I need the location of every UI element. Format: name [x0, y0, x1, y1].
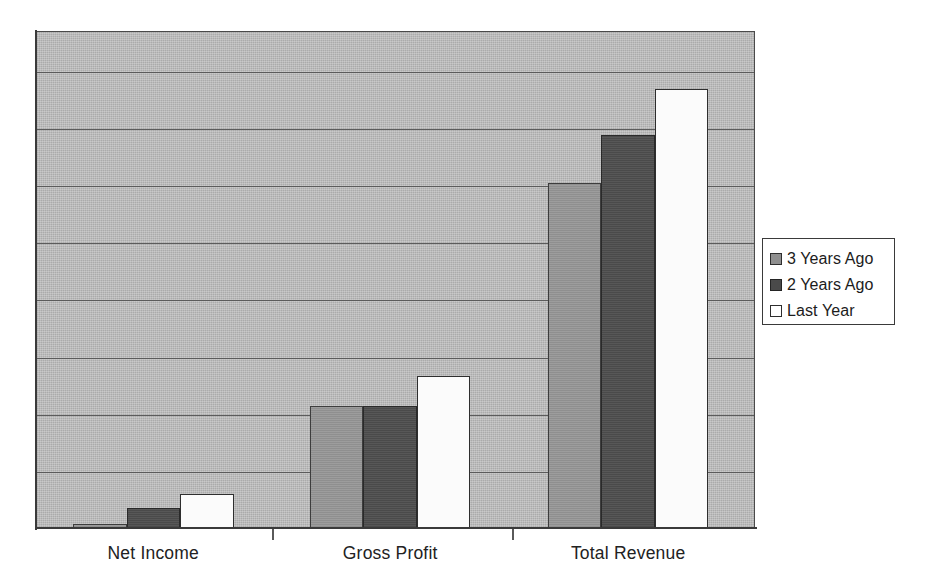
bar-gross-profit-last-year: [417, 376, 471, 529]
bar-gross-profit-3-years-ago: [310, 406, 364, 529]
legend-item-2: Last Year: [770, 298, 888, 324]
bar-total-revenue-3-years-ago: [548, 183, 602, 529]
bar-net-income-last-year: [180, 494, 234, 529]
bar-chart-figure: Net IncomeGross ProfitTotal Revenue 3 Ye…: [0, 0, 931, 585]
x-axis-tick: [512, 529, 514, 540]
x-axis-tick: [272, 529, 274, 540]
x-axis-label-gross-profit: Gross Profit: [280, 543, 500, 564]
legend-swatch-2-years-ago-icon: [770, 279, 782, 291]
chart-legend: 3 Years Ago 2 Years Ago Last Year: [762, 238, 895, 325]
legend-swatch-last-year-icon: [770, 305, 782, 317]
legend-label-1: 2 Years Ago: [787, 276, 874, 294]
bar-net-income-2-years-ago: [127, 508, 181, 529]
legend-label-0: 3 Years Ago: [787, 250, 874, 268]
y-axis-line: [35, 30, 37, 530]
legend-swatch-3-years-ago-icon: [770, 253, 782, 265]
x-axis-label-net-income: Net Income: [43, 543, 263, 564]
bar-total-revenue-last-year: [655, 89, 709, 529]
legend-item-0: 3 Years Ago: [770, 246, 888, 272]
legend-item-1: 2 Years Ago: [770, 272, 888, 298]
gridline: [36, 129, 754, 130]
bar-total-revenue-2-years-ago: [601, 135, 655, 529]
x-axis-label-total-revenue: Total Revenue: [518, 543, 738, 564]
bar-gross-profit-2-years-ago: [363, 406, 417, 529]
gridline: [36, 72, 754, 73]
plot-area: [36, 31, 755, 528]
legend-label-2: Last Year: [787, 302, 855, 320]
x-axis-line: [35, 527, 757, 529]
